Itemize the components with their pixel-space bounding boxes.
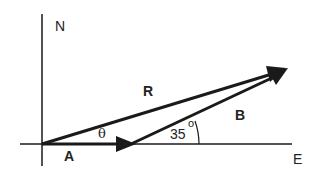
degree-symbol: o (188, 117, 194, 129)
vector-diagram: N E A R B θ 35 o (0, 0, 314, 177)
angle-arc-35 (195, 121, 199, 144)
vector-b-label: B (235, 107, 245, 123)
vector-a-label: A (64, 148, 74, 164)
vector-r-label: R (143, 83, 153, 99)
east-label: E (293, 151, 302, 167)
theta-label: θ (98, 126, 106, 141)
angle-35-label: 35 (170, 126, 186, 142)
north-label: N (55, 18, 65, 34)
